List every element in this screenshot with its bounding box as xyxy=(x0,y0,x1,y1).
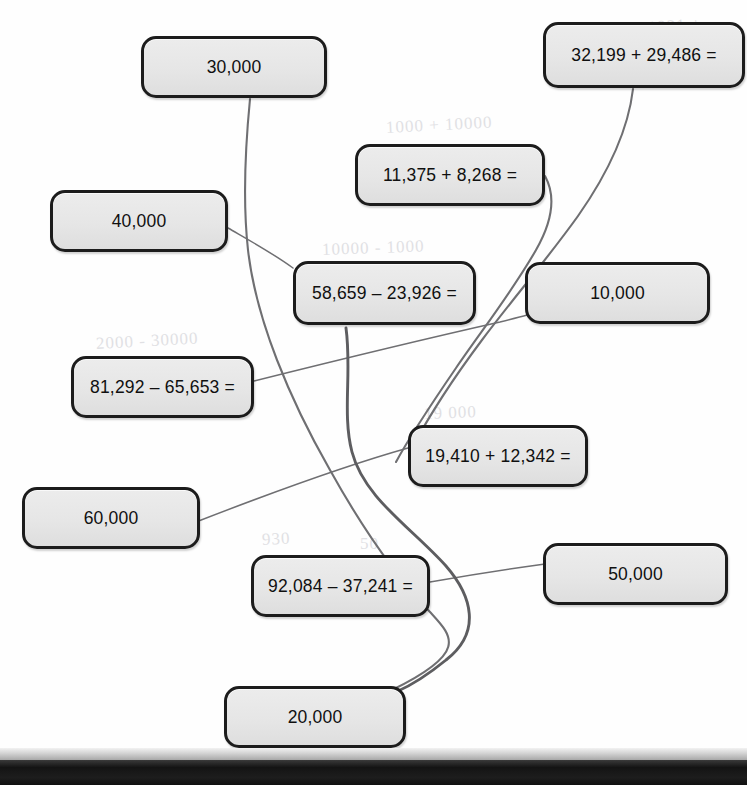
answer-card-label: 20,000 xyxy=(288,707,343,728)
answer-card[interactable]: 10,000 xyxy=(525,262,710,324)
answer-card[interactable]: 20,000 xyxy=(224,686,406,748)
equation-card[interactable]: 81,292 – 65,653 = xyxy=(71,356,254,418)
answer-card[interactable]: 30,000 xyxy=(141,36,327,98)
answer-card-label: 60,000 xyxy=(84,508,139,529)
answer-card-label: 30,000 xyxy=(207,57,262,78)
answer-card-label: 50,000 xyxy=(608,564,663,585)
answer-card[interactable]: 50,000 xyxy=(543,543,728,605)
photo-edge-strip xyxy=(0,748,747,760)
worksheet-page: 1000 + 100001921 +10000 - 10002000 - 300… xyxy=(0,0,747,785)
equation-card-label: 19,410 + 12,342 = xyxy=(425,446,570,467)
equation-card-label: 92,084 – 37,241 = xyxy=(268,576,413,597)
equation-card[interactable]: 11,375 + 8,268 = xyxy=(355,144,545,206)
equation-card-label: 81,292 – 65,653 = xyxy=(90,377,235,398)
equation-card[interactable]: 32,199 + 29,486 = xyxy=(543,22,745,88)
equation-card-label: 11,375 + 8,268 = xyxy=(383,165,517,186)
equation-card[interactable]: 58,659 – 23,926 = xyxy=(293,261,476,325)
connector-line xyxy=(196,448,408,522)
photo-edge-band xyxy=(0,760,747,785)
answer-card-label: 40,000 xyxy=(112,211,167,232)
connector-line xyxy=(228,228,293,268)
equation-card[interactable]: 19,410 + 12,342 = xyxy=(408,425,588,487)
answer-card[interactable]: 40,000 xyxy=(50,190,228,252)
equation-card[interactable]: 92,084 – 37,241 = xyxy=(251,555,430,617)
equation-card-label: 58,659 – 23,926 = xyxy=(312,283,457,304)
equation-card-label: 32,199 + 29,486 = xyxy=(571,45,716,66)
answer-card-label: 10,000 xyxy=(590,283,645,304)
answer-card[interactable]: 60,000 xyxy=(22,487,200,549)
